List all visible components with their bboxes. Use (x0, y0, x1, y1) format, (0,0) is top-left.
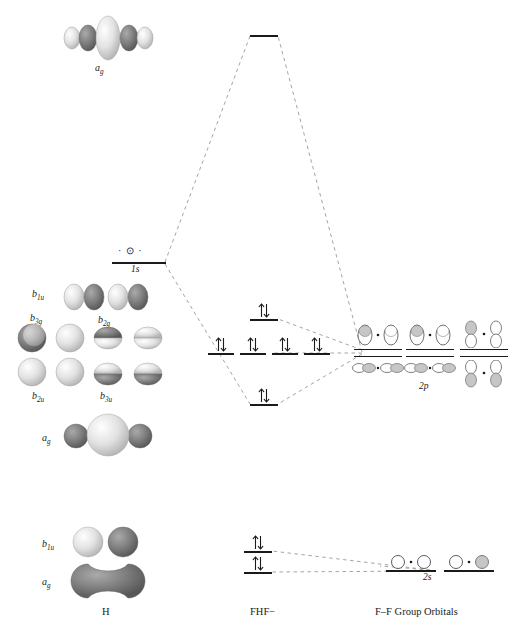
level-nonbonding-upper (250, 319, 278, 321)
orbital-sketch-b2g-lobes (88, 320, 168, 356)
level-label-1s: 1s (131, 264, 139, 274)
group-orbital-2p-c-top (462, 320, 506, 348)
orbital-sketch-b3u (88, 356, 168, 392)
h-1s-symbol: · ⊙ · (118, 245, 143, 256)
orbital-sketch-bottom-b1u (68, 526, 146, 558)
orbital-label-b1u: b1u (32, 288, 44, 302)
orbital-label-bottom-ag: ag (42, 576, 51, 590)
group-orbital-2p-a-bottom (352, 360, 404, 376)
orbital-label-bottom-b1u: b1u (42, 538, 54, 552)
orbital-label-top-ag: ag (95, 62, 104, 76)
level-degenerate-2 (240, 353, 266, 355)
electron-pair-degenerate-3 (278, 337, 292, 352)
electron-pair-degenerate-4 (310, 337, 324, 352)
group-orbital-2p-a-top (356, 324, 400, 346)
level-2p-group-b-upper (406, 349, 454, 350)
group-orbital-2p-b-top (408, 324, 452, 346)
group-orbital-2p-b-bottom (404, 360, 456, 376)
level-label-2p: 2p (419, 381, 429, 391)
orbital-sketch-mid-ag (62, 412, 154, 458)
orbital-sketch-b2u (16, 356, 88, 388)
column-label-fhf: FHF− (250, 606, 275, 617)
level-degenerate-1 (208, 353, 234, 355)
electron-pair-degenerate-1 (214, 337, 228, 352)
group-orbital-2s-a (388, 554, 434, 570)
column-label-group-orbitals: F–F Group Orbitals (375, 606, 458, 617)
orbital-sketch-top-ag (58, 12, 163, 64)
level-2s-group-b (444, 570, 494, 572)
orbital-sketch-b1u (62, 282, 150, 312)
level-2p-group-a-lower (354, 356, 402, 357)
level-2p-group-b-lower (406, 356, 454, 357)
orbital-label-b3u: b3u (100, 390, 112, 404)
level-2s-derived-lower (244, 572, 272, 574)
column-label-h: H (102, 606, 110, 617)
group-orbital-2s-b (446, 554, 492, 570)
orbital-label-mid-ag: ag (42, 432, 51, 446)
electron-pair-2s-lower (251, 556, 265, 571)
electron-pair-sigma-bonding (257, 388, 271, 403)
electron-pair-nonbonding-upper (257, 303, 271, 318)
group-orbital-2p-c-bottom (462, 360, 506, 388)
orbital-sketch-b3g (16, 322, 88, 354)
level-degenerate-4 (304, 353, 330, 355)
level-2p-group-c-upper (460, 349, 508, 350)
electron-pair-degenerate-2 (246, 337, 260, 352)
orbital-label-b2u: b2u (32, 390, 44, 404)
mo-diagram-figure: ag b1u b3g b2g b2u (0, 0, 512, 628)
orbital-sketch-bottom-ag (66, 560, 150, 602)
level-label-2s: 2s (423, 572, 431, 582)
level-degenerate-3 (272, 353, 298, 355)
level-2p-group-a-upper (354, 349, 402, 350)
level-sigma-star (250, 35, 278, 37)
electron-pair-2s-upper (251, 535, 265, 550)
level-2s-derived-upper (244, 551, 272, 553)
level-2p-group-c-lower (460, 356, 508, 357)
level-sigma-bonding (250, 404, 278, 406)
